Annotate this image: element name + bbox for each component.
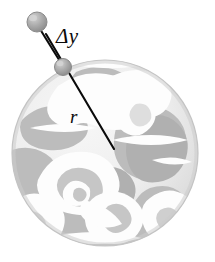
ball-lower xyxy=(55,59,72,76)
label-delta-y: Δy xyxy=(56,26,78,47)
figure-canvas xyxy=(0,0,215,262)
ball-lower-highlight xyxy=(57,61,64,66)
label-radius-r: r xyxy=(70,107,77,126)
ball-lower-sphere xyxy=(55,59,72,76)
planet-globe xyxy=(0,59,198,252)
ball-upper xyxy=(27,12,47,32)
globe-surface-texture xyxy=(0,59,198,252)
ball-upper-sphere xyxy=(27,12,47,32)
physics-figure-planet-fall: Δy r xyxy=(0,0,215,262)
ball-upper-highlight xyxy=(29,15,37,21)
